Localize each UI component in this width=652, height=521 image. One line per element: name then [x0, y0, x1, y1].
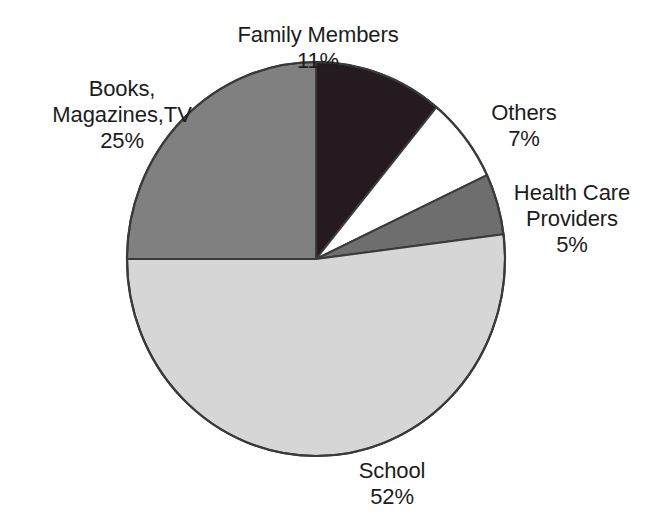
pie-label-others-name: Others [491, 100, 556, 126]
pie-label-family-members-name: Family Members [237, 22, 398, 48]
pie-label-family-members: Family Members 11% [237, 22, 398, 74]
pie-label-family-members-value: 11% [237, 48, 398, 74]
pie-label-others-value: 7% [491, 126, 556, 152]
pie-label-books-magazines-tv-line1: Books, [52, 76, 191, 102]
pie-label-school-name: School [359, 458, 426, 484]
pie-label-books-magazines-tv-value: 25% [52, 128, 191, 154]
pie-label-health-care-providers-line2: Providers [514, 206, 630, 232]
pie-label-school-value: 52% [359, 484, 426, 510]
pie-label-books-magazines-tv: Books, Magazines,TV 25% [52, 76, 191, 154]
pie-chart-figure: Family Members 11% Others 7% Health Care… [0, 0, 652, 521]
pie-label-health-care-providers: Health Care Providers 5% [514, 180, 630, 258]
pie-label-school: School 52% [359, 458, 426, 510]
pie-label-health-care-providers-value: 5% [514, 232, 630, 258]
pie-label-books-magazines-tv-line2: Magazines,TV [52, 102, 191, 128]
pie-label-health-care-providers-line1: Health Care [514, 180, 630, 206]
pie-slice-school [127, 234, 505, 456]
pie-label-others: Others 7% [491, 100, 556, 152]
